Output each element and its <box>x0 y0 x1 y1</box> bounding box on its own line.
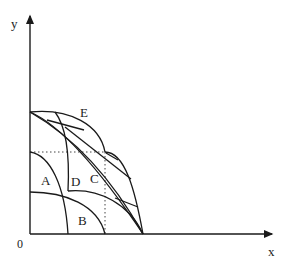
region-label-d: D <box>71 174 80 189</box>
y-axis-label: y <box>11 16 18 31</box>
curve-e-lower <box>105 152 143 234</box>
region-label-a: A <box>41 173 51 188</box>
diagram-canvas: y x 0 E A D C B <box>0 0 289 270</box>
production-possibility-diagram: y x 0 E A D C B <box>0 0 289 270</box>
x-axis-label: x <box>268 244 275 259</box>
region-label-b: B <box>78 213 87 228</box>
region-label-e: E <box>80 105 88 120</box>
origin-label: 0 <box>17 237 23 251</box>
tangent-line-top <box>47 120 84 130</box>
region-label-c: C <box>90 171 99 186</box>
